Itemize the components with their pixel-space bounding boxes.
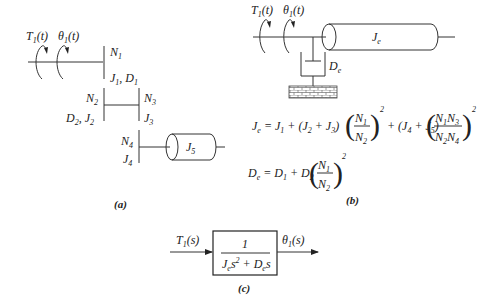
svg-text:N2: N2 [317,177,330,193]
svg-text:2: 2 [472,105,476,114]
svg-text:(: ( [345,108,355,142]
equivalent-inertia-je: Je [322,24,455,50]
de-label: De [328,59,342,75]
svg-text:N1N3: N1N3 [434,111,459,127]
gear4-teeth-label: N4 [120,134,133,150]
svg-text:N2N4: N2N4 [434,130,459,146]
torque-rotation-icon-b [260,20,269,53]
svg-text:N1: N1 [317,158,330,174]
tf-numerator: 1 [242,237,248,251]
svg-text:2: 2 [342,152,346,161]
svg-text:De = D1 + D2: De = D1 + D2 [247,166,314,182]
angle-label-a: θ1(t) [58,29,79,45]
gear-train-diagram: T1(t) θ1(t) N1 J1, D1 N2 D2, J2 N3 J3 N4… [0,0,485,304]
angle-label-b: θ1(t) [283,3,304,19]
gear2-params-label: D2, J2 [65,111,94,127]
torque-label-a: T1(t) [26,29,48,45]
gear4-params-label: J4 [123,152,132,168]
panel-b: T1(t) θ1(t) De Je Je = J1 + (J2 + J3) ( … [247,3,476,207]
torque-label-b: T1(t) [251,3,273,19]
caption-a: (a) [114,198,127,211]
svg-text:): ) [370,108,380,142]
panel-a: T1(t) θ1(t) N1 J1, D1 N2 D2, J2 N3 J3 N4… [26,29,225,211]
load-inertia-j5: J5 [166,134,225,160]
svg-text:): ) [462,108,472,142]
svg-text:N1: N1 [354,111,367,127]
j5-label: J5 [186,140,195,156]
caption-b: (b) [346,194,359,207]
caption-c: (c) [238,282,250,295]
input-label-c: T1(s) [176,233,199,249]
output-label-c: θ1(s) [282,233,305,249]
svg-text:): ) [333,156,343,190]
gear3-teeth-label: N3 [143,91,156,107]
svg-text:2: 2 [380,105,384,114]
svg-text:N2: N2 [354,130,367,146]
gear1-params-label: J1, D1 [110,71,138,87]
gear1-teeth-label: N1 [109,45,122,61]
gear2-teeth-label: N2 [85,91,98,107]
de-equation: De = D1 + D2 ( N1 N2 ) 2 [247,152,346,193]
je-equation: Je = J1 + (J2 + J3) ( N1 N2 ) 2 + (J4 + … [252,105,476,146]
je-label: Je [372,30,381,46]
angle-rotation-icon-b [284,20,293,53]
panel-c: T1(s) 1 Jes2 + Des θ1(s) (c) [170,231,318,295]
gear3-params-label: J3 [144,111,153,127]
svg-text:Je = J1 + (J2 + J3): Je = J1 + (J2 + J3) [252,119,339,135]
